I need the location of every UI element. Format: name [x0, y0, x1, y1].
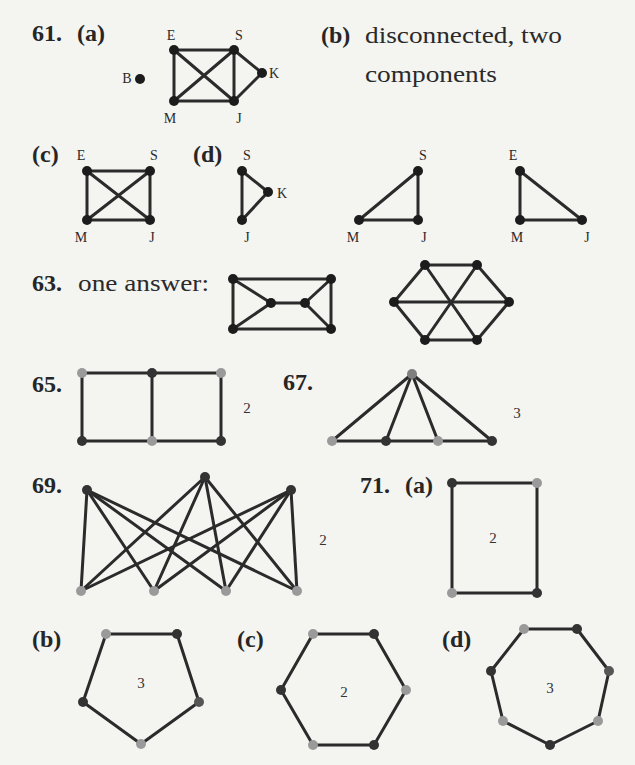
- vertex-6: [300, 298, 310, 308]
- vertex-E: [515, 166, 525, 176]
- graph-61d-3: EMJ: [509, 148, 591, 245]
- edge-1-5: [233, 279, 271, 303]
- vertex-label-M: M: [347, 230, 360, 245]
- vertex-c: [216, 368, 226, 378]
- vertex-d: [433, 436, 443, 446]
- vertex-e: [487, 436, 497, 446]
- edge-b-c: [374, 634, 406, 690]
- edge-e-f: [281, 690, 313, 745]
- chromatic-number: 3: [513, 405, 521, 421]
- vertex-M: [354, 215, 364, 225]
- edge-t1-b1: [81, 490, 87, 591]
- answer-61b-line1: disconnected, two: [365, 23, 562, 48]
- part-label-71a: (a): [405, 472, 433, 498]
- vertex-f: [276, 685, 286, 695]
- edge-J-K: [234, 73, 262, 101]
- problem-number-63: 63.: [32, 270, 62, 296]
- vertex-label-B: B: [122, 71, 131, 86]
- graph-71a: 2: [447, 478, 542, 598]
- vertex-c: [532, 588, 542, 598]
- vertex-d: [593, 716, 603, 726]
- graph-69: 2: [76, 472, 327, 596]
- graphs-layer: ESKMJBESMJSKJSMJEMJ2322323: [75, 28, 614, 750]
- vertex-label-M: M: [511, 230, 524, 245]
- vertex-E: [82, 166, 92, 176]
- graph-67: 3: [327, 369, 521, 446]
- vertex-t2: [200, 472, 210, 482]
- edge-d-e: [550, 721, 598, 745]
- vertex-6: [389, 297, 399, 307]
- vertex-J: [413, 215, 423, 225]
- vertex-c: [604, 666, 614, 676]
- answer-page: ESKMJBESMJSKJSMJEMJ2322323 61. (a) (b) d…: [0, 0, 635, 765]
- vertex-e: [147, 436, 157, 446]
- vertex-4: [472, 335, 482, 345]
- chromatic-number: 2: [489, 530, 497, 546]
- edge-4-6: [305, 303, 331, 329]
- vertex-label-E: E: [167, 28, 176, 43]
- chromatic-number: 2: [319, 532, 327, 548]
- part-label-61c: (c): [32, 141, 59, 167]
- edge-S-K: [234, 50, 262, 73]
- graph-71b: 3: [78, 629, 204, 749]
- part-label-71d: (d): [442, 626, 471, 652]
- edge-d-e: [83, 702, 141, 744]
- graph-71c: 2: [276, 629, 411, 750]
- vertex-b4: [292, 586, 302, 596]
- vertex-a: [447, 478, 457, 488]
- vertex-label-J: J: [244, 230, 250, 245]
- edge-f-a: [281, 634, 313, 690]
- vertex-a: [407, 369, 417, 379]
- vertex-E: [169, 45, 179, 55]
- graph-61d-1: SKJ: [237, 148, 287, 245]
- vertex-f: [216, 436, 226, 446]
- vertex-b1: [76, 586, 86, 596]
- vertex-5: [266, 298, 276, 308]
- vertex-M: [82, 215, 92, 225]
- vertex-M: [515, 215, 525, 225]
- graph-61c: ESMJ: [75, 148, 158, 245]
- vertex-t3: [286, 485, 296, 495]
- vertex-b3: [221, 586, 231, 596]
- vertex-1: [228, 274, 238, 284]
- vertex-1: [420, 260, 430, 270]
- vertex-S: [229, 45, 239, 55]
- edge-c-d: [374, 690, 406, 745]
- vertex-e: [308, 740, 318, 750]
- vertex-e: [545, 740, 555, 750]
- part-label-61d: (d): [193, 141, 222, 167]
- edge-2-6: [305, 279, 331, 303]
- vertex-a: [519, 624, 529, 634]
- edge-t1-b3: [87, 490, 226, 591]
- edge-6-1: [394, 265, 425, 302]
- vertex-2: [472, 260, 482, 270]
- vertex-B: [135, 74, 145, 84]
- vertex-J: [577, 215, 587, 225]
- graph-61d-2: SMJ: [347, 148, 428, 245]
- part-label-71c: (c): [237, 626, 264, 652]
- problem-number-69: 69.: [32, 472, 62, 498]
- vertex-S: [237, 166, 247, 176]
- edge-S-M: [359, 171, 418, 220]
- vertex-label-J: J: [149, 230, 155, 245]
- problem-number-61: 61.: [32, 20, 62, 46]
- vertex-J: [229, 96, 239, 106]
- chromatic-number: 3: [137, 675, 145, 691]
- graph-63b: [389, 260, 514, 345]
- graph-65: 2: [77, 368, 251, 446]
- part-label-61a: (a): [77, 20, 105, 46]
- edge-3-5: [233, 303, 271, 329]
- vertex-5: [420, 335, 430, 345]
- vertex-t1: [82, 485, 92, 495]
- answer-61b-line2: components: [365, 62, 497, 87]
- edge-b-c: [577, 629, 609, 671]
- vertex-S: [413, 166, 423, 176]
- vertex-K: [257, 68, 267, 78]
- vertex-4: [326, 324, 336, 334]
- vertex-d: [136, 739, 146, 749]
- problem-63: 63. one answer:: [32, 270, 209, 296]
- vertex-d: [77, 436, 87, 446]
- vertex-c: [401, 685, 411, 695]
- chromatic-number: 2: [243, 400, 251, 416]
- graph-71d: 3: [486, 624, 614, 750]
